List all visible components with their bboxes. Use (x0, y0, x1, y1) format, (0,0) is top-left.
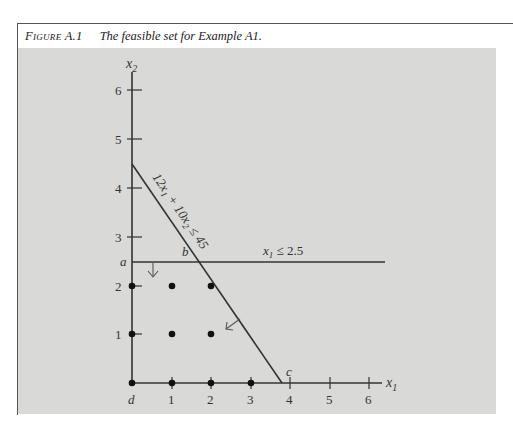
vertex-label-a: a (120, 254, 127, 269)
point (248, 380, 255, 387)
x-axis-label: x1 (385, 375, 397, 393)
svg-text:3: 3 (247, 392, 254, 407)
arrow-down-icon (148, 263, 158, 277)
integer-points (129, 283, 255, 387)
point (208, 331, 215, 338)
point (208, 283, 215, 290)
y-ticks (127, 90, 142, 334)
vertex-label-d: d (128, 392, 135, 407)
svg-text:2: 2 (115, 279, 122, 294)
point (169, 331, 176, 338)
svg-text:4: 4 (286, 392, 293, 407)
y-tick-labels: 1 2 3 4 5 6 (115, 83, 122, 342)
x-tick-labels: 1 2 3 4 5 6 (168, 392, 372, 407)
svg-text:3: 3 (115, 230, 122, 245)
point (129, 331, 136, 338)
point (169, 380, 176, 387)
svg-text:2: 2 (207, 392, 214, 407)
svg-text:1: 1 (115, 327, 122, 342)
arrow-down-left-icon (226, 319, 240, 330)
chart-plot: x2 x1 1 2 3 4 5 6 1 2 3 4 5 6 (0, 0, 513, 435)
vertex-label-b: b (182, 244, 189, 259)
point (129, 380, 136, 387)
svg-text:5: 5 (115, 132, 122, 147)
y-axis-label: x2 (125, 56, 137, 74)
svg-text:1: 1 (168, 392, 175, 407)
point (129, 283, 136, 290)
constraint-line-12x1-10x2 (132, 164, 282, 383)
svg-text:6: 6 (365, 392, 372, 407)
svg-text:6: 6 (115, 83, 122, 98)
constraint-label-12x1-10x2: 12x1 + 10x2 ≤ 45 (148, 170, 212, 253)
vertex-label-c: c (286, 364, 292, 379)
point (169, 283, 176, 290)
svg-text:4: 4 (115, 181, 122, 196)
constraint-label-2-5: x1 ≤ 2.5 (262, 243, 303, 260)
point (208, 380, 215, 387)
svg-text:5: 5 (326, 392, 333, 407)
